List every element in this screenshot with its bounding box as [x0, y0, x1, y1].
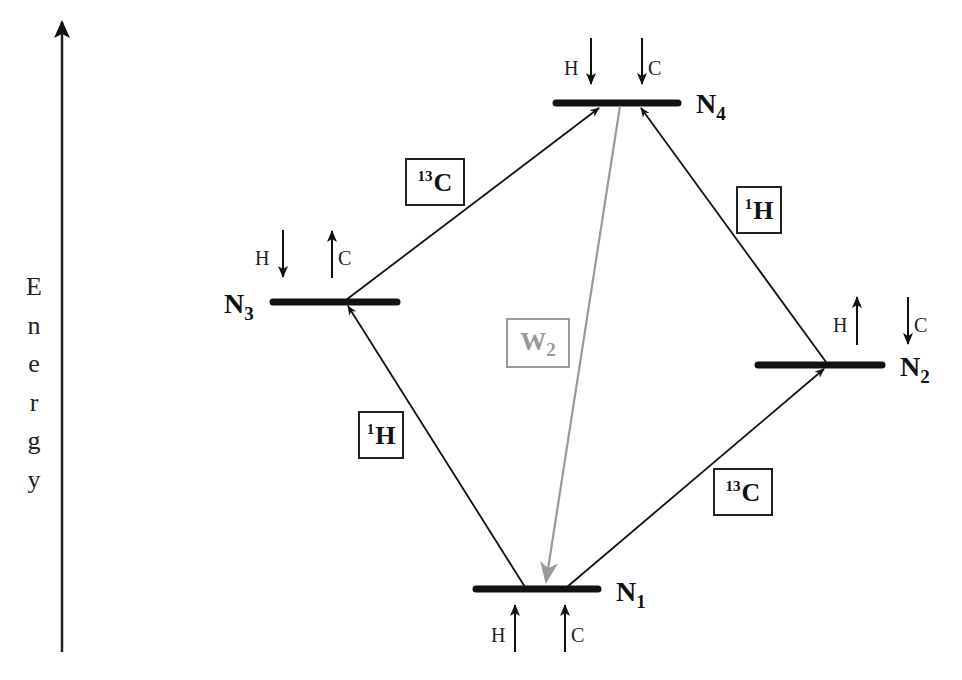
axis-letter: E [22, 268, 46, 307]
axis-letter: e [22, 345, 46, 384]
level-n3-label: N3 [224, 288, 254, 325]
level-n1-label: N1 [616, 576, 646, 613]
level-n4-label: N4 [696, 88, 726, 125]
transition-n1-n2-label-box: 13C [713, 468, 773, 516]
transition-n2-n4-arrow [641, 108, 826, 362]
level-n2-label: N2 [900, 351, 930, 388]
axis-letter: g [22, 422, 46, 461]
energy-level-diagram [0, 0, 962, 680]
transition-n3-n4-arrow [346, 108, 599, 300]
n4-h-spin-label: H [564, 57, 578, 80]
energy-axis-label: E n e r g y [22, 268, 46, 499]
n2-h-spin-label: H [833, 314, 847, 337]
axis-letter: r [22, 384, 46, 423]
n1-c-spin-label: C [571, 624, 584, 647]
n1-h-spin-label: H [491, 624, 505, 647]
transition-n1-n3-label-box: 1H [358, 411, 404, 459]
n3-h-spin-label: H [255, 247, 269, 270]
transition-n2-n4-label-box: 1H [736, 186, 782, 234]
transition-w2-label-box: W2 [506, 318, 570, 368]
n3-c-spin-label: C [338, 247, 351, 270]
n4-c-spin-label: C [648, 57, 661, 80]
axis-letter: n [22, 307, 46, 346]
transition-n3-n4-label-box: 13C [405, 158, 465, 206]
n2-c-spin-label: C [914, 314, 927, 337]
axis-letter: y [22, 461, 46, 500]
transition-n1-n2-arrow [567, 369, 824, 587]
